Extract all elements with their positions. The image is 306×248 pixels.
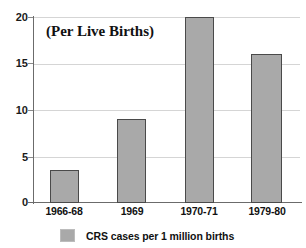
x-tick-label-1969: 1969 (98, 205, 166, 217)
bars-layer (34, 17, 300, 203)
x-tick-label-1979-80: 1979-80 (233, 205, 301, 217)
bar-1966-68[interactable] (50, 170, 79, 204)
x-tick-label-1966-68: 1966-68 (30, 205, 98, 217)
y-tick-label-10: 10 (4, 105, 28, 116)
x-axis-tick-labels: 1966-68 1969 1970-71 1979-80 (34, 205, 300, 223)
legend-label-crs-cases: CRS cases per 1 million births (86, 230, 234, 242)
y-tick-label-20: 20 (4, 12, 28, 23)
y-axis-tick-labels: 20 15 10 5 0 (0, 0, 28, 248)
y-tick-label-5: 5 (4, 152, 28, 163)
chart-legend: CRS cases per 1 million births (60, 229, 234, 242)
y-tick-label-0: 0 (4, 197, 28, 208)
bar-chart: 20 15 10 5 0 (Per Live Births) 1966-68 1… (0, 0, 306, 248)
bar-1969[interactable] (117, 119, 146, 203)
cropped-title-remnant (0, 0, 306, 6)
y-tick-label-15: 15 (4, 58, 28, 69)
bar-1970-71[interactable] (185, 17, 214, 203)
x-tick-label-1970-71: 1970-71 (165, 205, 233, 217)
legend-swatch-crs-cases (60, 229, 75, 242)
bar-1979-80[interactable] (251, 54, 282, 203)
